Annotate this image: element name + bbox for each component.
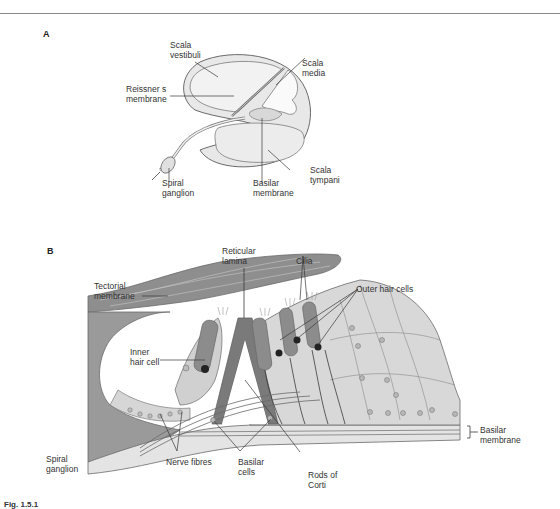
label-reticular-lamina: Reticular lamina — [222, 246, 256, 266]
label-scala-tympani: Scala tympani — [310, 165, 340, 185]
label-rods-of-corti: Rods of Corti — [308, 470, 337, 490]
label-basilar-membrane-b: Basilar membrane — [480, 425, 521, 445]
label-basilar-membrane-a: Basilar membrane — [253, 178, 294, 198]
label-basilar-cells: Basilar cells — [238, 457, 264, 477]
label-nerve-fibres: Nerve fibres — [166, 457, 212, 467]
label-reissners-membrane: Reissner s membrane — [126, 84, 167, 104]
label-tectorial-membrane: Tectorial membrane — [94, 281, 135, 301]
label-inner-hair-cell: Inner hair cell — [130, 347, 159, 367]
label-spiral-ganglion-a: Spiral ganglion — [162, 178, 194, 198]
panel-a-drawing — [152, 55, 311, 183]
label-spiral-ganglion-b: Spiral ganglion — [46, 454, 78, 474]
panel-b-letter: B — [47, 246, 54, 256]
label-scala-vestibuli: Scala vestibuli — [170, 40, 201, 60]
label-scala-media: Scala media — [302, 58, 325, 78]
figure-caption: Fig. 1.5.1 — [4, 500, 38, 509]
label-cilia: Cilia — [296, 256, 313, 266]
label-outer-hair-cells: Outer hair cells — [356, 284, 413, 294]
